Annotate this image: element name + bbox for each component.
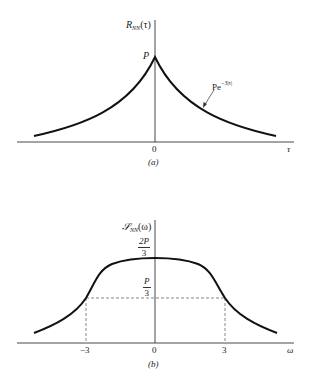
arrowhead-icon <box>203 102 207 108</box>
b-tick-neg3: −3 <box>80 346 90 355</box>
b-peak-fraction: 2P 3 <box>138 237 150 258</box>
b-half-den: 3 <box>145 288 150 298</box>
b-peak-den: 3 <box>142 248 147 258</box>
a-ylabel-sub: NN <box>132 25 140 31</box>
a-peak-label: P <box>143 51 149 61</box>
b-origin-label: 0 <box>152 346 157 355</box>
b-half-fraction: P 3 <box>143 277 151 298</box>
b-ylabel-arg: (ω) <box>138 221 151 232</box>
a-origin-label: 0 <box>152 145 157 154</box>
a-caption: (a) <box>148 158 159 167</box>
b-x-axis-label: ω <box>287 346 293 355</box>
a-x-axis-label: τ <box>287 145 290 154</box>
a-curve-label-exp: −3|τ| <box>221 80 232 86</box>
a-y-axis-label: RNN(τ) <box>126 20 151 31</box>
b-peak-num: 2P <box>138 237 150 248</box>
b-ylabel-sub: NN <box>130 227 138 233</box>
a-curve-label-base: Pe <box>212 82 221 92</box>
b-caption: (b) <box>148 360 159 369</box>
figure-canvas <box>0 0 312 381</box>
b-ylabel-main: 𝒮 <box>122 221 130 232</box>
b-half-num: P <box>143 277 151 288</box>
b-lorentzian-curve <box>34 258 277 333</box>
b-tick-pos3: 3 <box>222 346 227 355</box>
a-curve-label: Pe−3|τ| <box>212 80 232 92</box>
a-ylabel-arg: (τ) <box>140 19 151 30</box>
b-y-axis-label: 𝒮NN(ω) <box>122 222 151 233</box>
